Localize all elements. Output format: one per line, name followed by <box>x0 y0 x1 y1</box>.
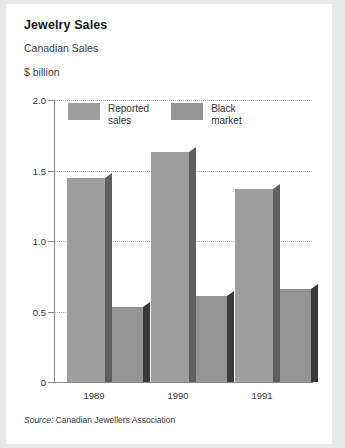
chart-legend: Reported sales Black market <box>68 103 264 126</box>
y-axis-tick-labels: 2.0 1.5 1.0 0.5 0 <box>14 4 46 448</box>
source-prefix: Source: <box>24 415 53 425</box>
bar-reported-1989[interactable] <box>67 178 105 382</box>
bars-layer <box>55 100 313 382</box>
x-tick-label-1989: 1989 <box>64 390 124 401</box>
y-tick-mark-0.5 <box>48 312 54 313</box>
bar-top-corner <box>227 291 234 296</box>
y-tick-mark-1.5 <box>48 171 54 172</box>
y-tick-mark-1.0 <box>48 241 54 242</box>
bar-side-face <box>143 307 150 382</box>
y-tick-mark-2.0 <box>48 100 54 101</box>
y-tick-label-2.0: 2.0 <box>20 95 46 106</box>
legend-label-black-market: Black market <box>211 103 242 126</box>
bar-top-corner <box>105 173 112 178</box>
bar-top-corner <box>273 184 280 189</box>
bar-side-face <box>273 189 280 382</box>
legend-label-reported-sales: Reported sales <box>108 103 149 126</box>
x-axis-line <box>54 382 313 383</box>
bar-top-corner <box>311 284 318 289</box>
y-tick-label-0: 0 <box>20 377 46 388</box>
legend-item-black-market[interactable]: Black market <box>171 103 242 126</box>
bar-front-face <box>235 189 273 382</box>
bar-front-face <box>151 152 189 382</box>
legend-item-reported-sales[interactable]: Reported sales <box>68 103 149 126</box>
y-tick-label-1.0: 1.0 <box>20 236 46 247</box>
bar-side-face <box>227 296 234 382</box>
x-tick-label-1990: 1990 <box>148 390 208 401</box>
bar-top-corner <box>189 147 196 152</box>
bar-top-corner <box>143 302 150 307</box>
y-tick-label-1.5: 1.5 <box>20 165 46 176</box>
bar-side-face <box>189 152 196 382</box>
chart-card: Jewelry Sales Canadian Sales $ billion 2… <box>6 4 332 444</box>
x-tick-label-1991: 1991 <box>232 390 292 401</box>
bar-side-face <box>311 289 318 382</box>
bar-reported-1990[interactable] <box>151 152 189 382</box>
bar-side-face <box>105 178 112 382</box>
y-tick-label-0.5: 0.5 <box>20 306 46 317</box>
source-note: Source: Canadian Jewellers Association <box>24 415 175 425</box>
y-tick-mark-0 <box>48 382 54 383</box>
source-text: Canadian Jewellers Association <box>53 415 175 425</box>
legend-swatch-reported-sales <box>68 103 100 120</box>
bar-reported-1991[interactable] <box>235 189 273 382</box>
legend-swatch-black-market <box>171 103 203 120</box>
bar-front-face <box>67 178 105 382</box>
